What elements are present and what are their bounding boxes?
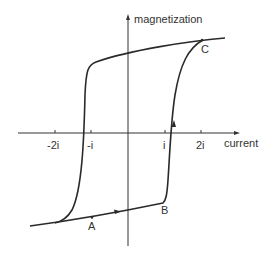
point-b-label: B bbox=[161, 205, 168, 216]
point-a-label: A bbox=[88, 221, 95, 232]
x-axis-arrow-icon bbox=[234, 131, 240, 135]
y-axis-label: magnetization bbox=[134, 14, 203, 25]
tick-label-i: i bbox=[163, 140, 165, 151]
point-a-marker bbox=[91, 216, 93, 218]
tick-label-neg-i: -i bbox=[87, 140, 93, 151]
point-c-label: C bbox=[201, 44, 209, 55]
point-c-marker bbox=[201, 39, 203, 41]
upper-branch-curve bbox=[55, 38, 225, 223]
diagram-canvas bbox=[0, 0, 269, 256]
x-axis-label: current bbox=[224, 138, 258, 149]
y-axis-arrow-icon bbox=[126, 14, 130, 20]
tick-label-2i: 2i bbox=[196, 140, 205, 151]
arrow-right-icon bbox=[114, 210, 121, 215]
tick-label-neg-2i: -2i bbox=[47, 140, 59, 151]
hysteresis-diagram: magnetization current -2i -i i 2i A B C bbox=[0, 0, 269, 256]
